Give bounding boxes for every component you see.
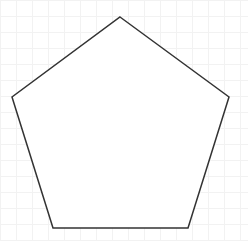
diagram-canvas xyxy=(0,0,248,241)
pentagon-diagram xyxy=(0,0,248,241)
